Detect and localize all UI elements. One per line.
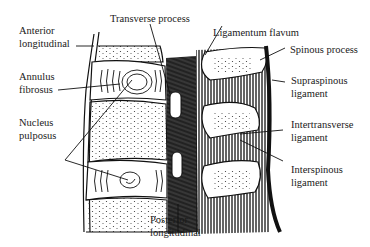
vertebral-bodies: [83, 32, 167, 232]
label-spinous-process: Spinous process: [290, 43, 358, 56]
ligament-region: [196, 46, 280, 234]
label-anterior-longitudinal: Anterior longitudinal: [19, 24, 70, 50]
label-interspinous-ligament: Interspinous ligament: [291, 163, 343, 189]
label-ligamentum-flavum: Ligamentum flavum: [213, 26, 299, 39]
label-annulus-fibrosus: Annulus fibrosus: [19, 70, 55, 96]
posterior-column: [166, 56, 198, 234]
label-intertransverse-ligament: Intertransverse ligament: [291, 118, 353, 144]
label-nucleus-pulposus: Nucleus pulposus: [19, 116, 56, 142]
label-posterior-longitudinal: Posterior longitudinal: [150, 213, 201, 239]
label-transverse-process: Transverse process: [110, 12, 190, 25]
label-supraspinous-ligament: Supraspinous ligament: [291, 74, 348, 100]
